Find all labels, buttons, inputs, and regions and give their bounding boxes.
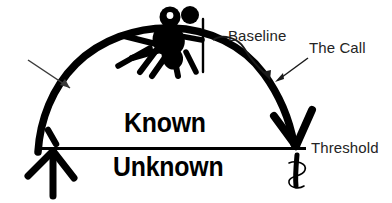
diagram-canvas: Baseline The Call Threshold Known Unknow… — [0, 0, 392, 203]
the-call-arrow — [275, 58, 308, 82]
label-the-call: The Call — [309, 39, 366, 56]
threshold-squiggle — [289, 155, 305, 188]
label-unknown: Unknown — [113, 152, 223, 183]
start-up-arrow — [28, 130, 74, 196]
label-threshold: Threshold — [311, 139, 379, 156]
climber-figure — [118, 6, 202, 76]
label-known: Known — [124, 108, 206, 139]
label-baseline: Baseline — [228, 27, 286, 44]
